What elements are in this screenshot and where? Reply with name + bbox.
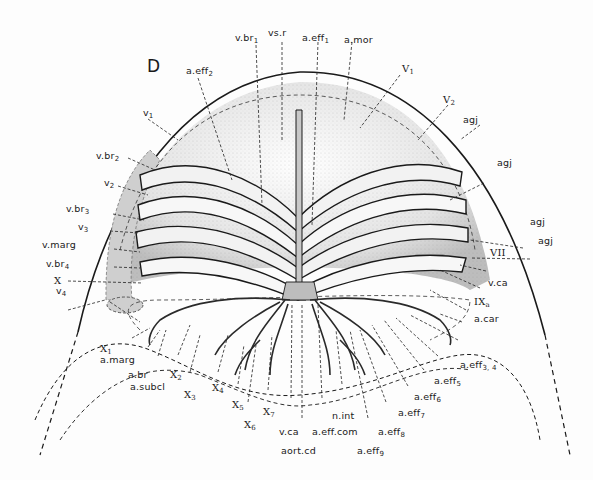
panel-label: D [147,56,160,76]
label-a-subcl: a.subcl [130,382,165,392]
label-v4: v4 [56,286,66,298]
gill-arch-illustration [0,0,593,480]
label-a-eff34: a.eff3, 4 [460,360,497,372]
label-aort-cd: aort.cd [281,446,316,456]
label-VII: VII [490,248,506,258]
label-V2: V2 [443,95,455,107]
label-a-eff8: a.eff8 [378,427,405,439]
label-a-mor: a.mor [344,35,373,45]
label-a-car: a.car [474,314,499,324]
label-a-eff5: a.eff5 [434,376,461,388]
label-v-br1: v.br1 [235,33,258,45]
label-X3: X3 [184,390,196,402]
label-X6: X6 [244,420,256,432]
label-a-eff9: a.eff9 [357,446,384,458]
label-v-ca-bottom: v.ca [279,427,299,437]
label-a-eff7: a.eff7 [398,408,425,420]
label-X4: X4 [212,383,224,395]
label-agj-1: agj [463,115,478,125]
anatomical-figure: D v.br1 vs.r a.eff1 a.mor a.eff2 v1 v.br… [0,0,593,480]
label-v2: v2 [104,178,114,190]
label-v-br3: v.br3 [66,204,89,216]
label-a-eff1: a.eff1 [302,33,329,45]
label-v-ca-right: v.ca [488,278,508,288]
label-v-marg: v.marg [42,240,76,250]
ventral-arteries [149,298,450,375]
label-agj-3: agj [530,217,545,227]
label-agj-4: agj [538,236,553,246]
label-X: X [54,276,61,286]
label-V1: V1 [402,64,414,76]
label-n-int: n.int [332,411,354,421]
label-IXa: IXa [474,297,490,309]
label-a-br: a.br [128,370,148,380]
label-X2: X2 [170,370,182,382]
label-v1: v1 [143,108,153,120]
label-X7: X7 [263,407,275,419]
label-a-eff6: a.eff6 [414,392,441,404]
label-v3: v3 [78,222,88,234]
label-a-eff2: a.eff2 [186,66,213,78]
label-a-eff-com: a.eff.com [312,427,358,437]
label-v-br2: v.br2 [96,151,119,163]
label-vs-r: vs.r [268,28,286,38]
label-a-marg: a.marg [100,355,135,365]
label-X5: X5 [232,400,244,412]
label-v-br4: v.br4 [46,259,69,271]
label-agj-2: agj [497,158,512,168]
